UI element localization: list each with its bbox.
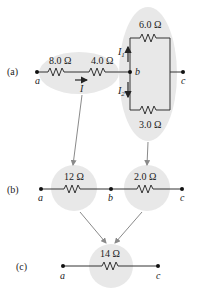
node-c-b (180, 187, 184, 191)
resistor-14ohm-label: 14 Ω (100, 248, 120, 259)
panel-a-label: (a) (7, 66, 18, 78)
resistor-6ohm-label: 6.0 Ω (139, 19, 161, 30)
node-a-b (39, 187, 43, 191)
node-b (128, 70, 132, 74)
panel-c-label: (c) (16, 261, 27, 273)
resistor-4ohm-label: 4.0 Ω (91, 55, 113, 66)
node-a-c (61, 264, 65, 268)
resistor-12ohm-label: 12 Ω (64, 171, 84, 182)
node-b-label: b (135, 66, 140, 77)
reduction-arrow-left (80, 212, 106, 243)
node-c (181, 70, 185, 74)
node-a-label: a (35, 75, 40, 86)
node-b-b-label: b (108, 192, 113, 203)
current-main-label: I (79, 83, 84, 94)
node-c-c-label: c (156, 270, 161, 281)
node-c-c (156, 264, 160, 268)
reduction-arrow-right (115, 212, 142, 243)
resistor-2ohm-label: 2.0 Ω (134, 171, 156, 182)
node-c-b-label: c (180, 192, 185, 203)
resistor-3ohm-label: 3.0 Ω (139, 119, 161, 130)
node-b-b (109, 187, 113, 191)
node-a (35, 70, 39, 74)
node-a-c-label: a (60, 270, 65, 281)
node-a-b-label: a (38, 192, 43, 203)
node-c-label: c (181, 75, 186, 86)
resistor-8ohm-label: 8.0 Ω (49, 55, 71, 66)
circuit-diagram: (a) a b c 8.0 Ω 4.0 Ω 6.0 Ω 3.0 Ω I I1 I… (0, 0, 198, 299)
reduction-arrow-parallel (147, 142, 148, 165)
panel-b-label: (b) (7, 184, 19, 196)
reduction-arrow-series (73, 95, 82, 165)
